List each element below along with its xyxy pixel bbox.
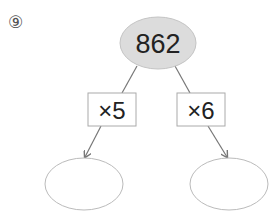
operation-label-right: ×6 (187, 97, 214, 124)
operation-box-left: ×5 (88, 93, 136, 126)
arrow-op-right-to-result-right (208, 126, 227, 157)
connector-root-to-op-left (122, 66, 137, 93)
connector-root-to-op-right (175, 66, 190, 93)
operation-box-right: ×6 (177, 93, 225, 126)
root-value: 862 (135, 29, 180, 59)
root-node: 862 (120, 17, 196, 69)
arrow-op-left-to-result-left (85, 126, 101, 157)
result-node-left[interactable] (45, 158, 123, 210)
operation-label-left: ×5 (98, 97, 125, 124)
multiplication-tree-diagram: 862 ×5 ×6 (0, 0, 279, 222)
result-node-right[interactable] (190, 158, 268, 210)
